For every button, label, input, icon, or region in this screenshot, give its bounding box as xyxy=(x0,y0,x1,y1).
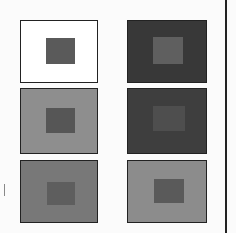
center-square xyxy=(46,38,75,64)
center-square xyxy=(153,106,185,131)
center-square xyxy=(153,37,183,64)
center-square xyxy=(47,182,75,205)
panel-middle-left xyxy=(20,88,98,154)
margin-mark xyxy=(4,184,5,196)
panel-top-left xyxy=(20,20,98,83)
center-square xyxy=(46,108,75,133)
panel-bottom-left xyxy=(20,160,98,223)
vertical-divider xyxy=(225,0,227,233)
panel-top-right xyxy=(127,20,207,83)
center-square xyxy=(154,179,184,203)
panel-middle-right xyxy=(127,88,207,154)
panel-bottom-right xyxy=(127,160,207,223)
